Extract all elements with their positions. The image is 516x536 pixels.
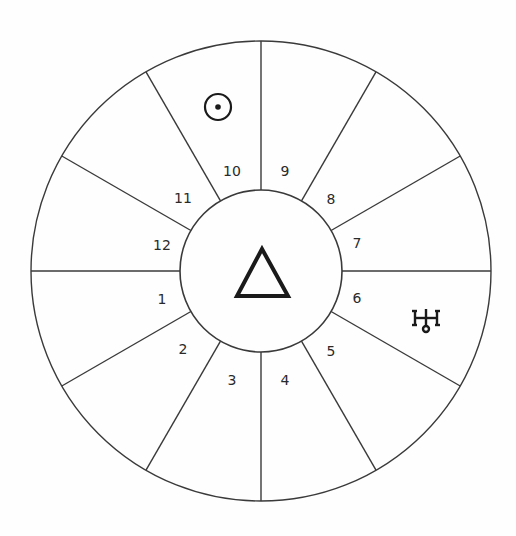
house-number: 5: [327, 343, 336, 359]
cusp-line-5: [302, 341, 377, 470]
house-number: 10: [223, 163, 241, 179]
house-number: 6: [353, 290, 362, 306]
uranus-icon: [412, 309, 440, 332]
house-number: 8: [327, 191, 336, 207]
house-number: 2: [179, 341, 188, 357]
sun-icon: [205, 94, 231, 120]
cusp-line-8: [331, 156, 460, 231]
astrological-chart-wheel: 1 2 3 4 5 6 7 8 9 10 11 12: [0, 0, 516, 536]
cusp-line-9: [302, 72, 377, 201]
house-number: 9: [281, 163, 290, 179]
house-number: 4: [281, 372, 290, 388]
cusp-line-3: [146, 341, 221, 470]
cusp-line-11: [146, 72, 221, 201]
inner-circle: [180, 190, 342, 352]
cusp-line-6: [331, 312, 460, 387]
house-number: 3: [228, 372, 237, 388]
house-number: 11: [174, 190, 192, 206]
cusp-line-2: [62, 312, 191, 387]
house-number: 7: [353, 235, 362, 251]
house-number: 1: [158, 291, 167, 307]
house-number: 12: [153, 237, 171, 253]
cusp-line-12: [62, 156, 191, 231]
